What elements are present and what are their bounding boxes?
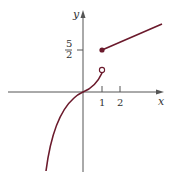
y-axis-arrow-icon [81, 10, 86, 18]
open-endpoint-marker [99, 67, 104, 72]
line-right-branch [102, 24, 162, 50]
x-axis-label: x [158, 95, 165, 108]
filled-endpoint-marker [99, 47, 104, 52]
y-tick-label-den: 2 [66, 49, 72, 60]
x-tick-label-2: 2 [117, 97, 123, 108]
graph-canvas: y x 1 2 5 2 [0, 0, 172, 181]
y-axis-label: y [72, 8, 80, 21]
x-tick-label-1: 1 [99, 97, 105, 108]
curve-left-branch [46, 73, 102, 171]
x-axis-arrow-icon [156, 90, 164, 95]
y-tick-label-num: 5 [66, 38, 72, 49]
